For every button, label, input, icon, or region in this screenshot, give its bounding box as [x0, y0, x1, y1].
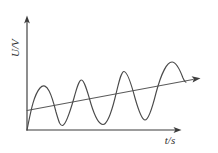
x-axis-label: t/s [165, 134, 175, 146]
figure-container: U/V t/s [0, 0, 218, 153]
y-axis-label-group: U/V [9, 38, 21, 57]
rising-trend-line [27, 80, 193, 111]
u-t-graph-svg: U/V t/s [0, 0, 218, 153]
y-axis-group [24, 16, 30, 131]
x-axis-group [27, 127, 182, 133]
trend-line-group [27, 76, 201, 110]
y-axis-label: U/V [9, 38, 21, 57]
